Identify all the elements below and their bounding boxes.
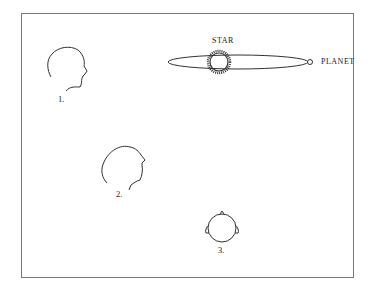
- head-profile-1: [48, 47, 87, 91]
- orbit-ellipse: [168, 55, 308, 69]
- figure-label-2: 2.: [116, 189, 122, 199]
- planet-icon: [308, 60, 313, 65]
- figure-label-3: 3.: [218, 245, 224, 255]
- star-icon: [208, 51, 230, 73]
- star-label: STAR: [212, 36, 234, 45]
- orbit-diagram: [168, 51, 313, 73]
- figure-label-1: 1.: [58, 94, 64, 104]
- head-top-3: [206, 211, 239, 242]
- diagram-canvas: [0, 0, 380, 292]
- head-profile-2: [102, 146, 145, 190]
- planet-label: PLANET: [321, 57, 355, 66]
